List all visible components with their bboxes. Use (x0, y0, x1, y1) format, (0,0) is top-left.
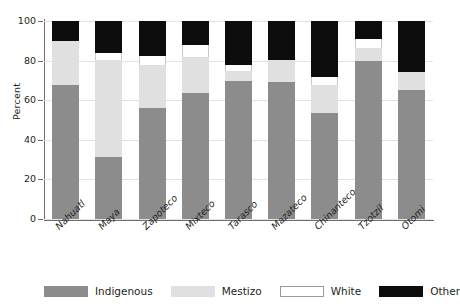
bar-segment-mestizo[interactable] (398, 72, 425, 91)
legend-swatch-other (379, 286, 423, 297)
legend-swatch-mestizo (171, 286, 215, 297)
bar-segment-white[interactable] (95, 53, 122, 60)
bar-segment-mestizo[interactable] (225, 71, 252, 82)
bar-segment-white[interactable] (139, 56, 166, 65)
bar-segment-indigenous[interactable] (225, 81, 252, 219)
y-axis-tick-label: 100 (6, 16, 36, 26)
bar-segment-other[interactable] (355, 21, 382, 39)
y-axis-tick-label: 0 (6, 214, 36, 224)
bar-column[interactable] (52, 21, 79, 219)
bar-column[interactable] (311, 21, 338, 219)
y-axis-tick (38, 61, 43, 62)
bar-segment-white[interactable] (311, 77, 338, 85)
bar-column[interactable] (355, 21, 382, 219)
legend-swatch-indigenous (44, 286, 88, 297)
bar-segment-mestizo[interactable] (95, 60, 122, 157)
y-axis-tick (38, 21, 43, 22)
bar-segment-other[interactable] (182, 21, 209, 45)
y-axis-tick (38, 140, 43, 141)
bar-segment-other[interactable] (268, 21, 295, 60)
bar-segment-other[interactable] (398, 21, 425, 71)
bar-column[interactable] (182, 21, 209, 219)
bar-segment-mestizo[interactable] (311, 85, 338, 113)
bar-segment-mestizo[interactable] (52, 41, 79, 86)
bar-segment-other[interactable] (311, 21, 338, 77)
bar-column[interactable] (268, 21, 295, 219)
chart-legend: IndigenousMestizoWhiteOther (44, 281, 444, 301)
bar-segment-mestizo[interactable] (355, 48, 382, 61)
y-axis-tick-label: 80 (6, 56, 36, 66)
bar-segment-indigenous[interactable] (268, 82, 295, 219)
legend-label: Indigenous (95, 285, 153, 297)
bar-segment-indigenous[interactable] (182, 93, 209, 219)
bar-segment-white[interactable] (225, 65, 252, 71)
bar-column[interactable] (139, 21, 166, 219)
bar-segment-other[interactable] (52, 21, 79, 41)
bar-segment-white[interactable] (182, 45, 209, 57)
legend-item-indigenous[interactable]: Indigenous (44, 285, 153, 297)
y-axis-tick-label: 20 (6, 174, 36, 184)
legend-item-other[interactable]: Other (379, 285, 460, 297)
legend-item-mestizo[interactable]: Mestizo (171, 285, 262, 297)
y-axis-tick (38, 100, 43, 101)
bar-segment-other[interactable] (95, 21, 122, 53)
legend-label: White (331, 285, 362, 297)
y-axis-tick (38, 219, 43, 220)
y-axis-tick-label: 40 (6, 135, 36, 145)
bar-segment-indigenous[interactable] (52, 85, 79, 219)
bar-column[interactable] (95, 21, 122, 219)
bar-segment-indigenous[interactable] (355, 61, 382, 219)
legend-swatch-white (280, 286, 324, 297)
y-axis-tick-label: 60 (6, 95, 36, 105)
y-axis-tick (38, 179, 43, 180)
plot-area: 020406080100 (44, 21, 433, 219)
legend-label: Mestizo (222, 285, 262, 297)
bar-group (44, 21, 433, 219)
legend-label: Other (430, 285, 460, 297)
legend-item-white[interactable]: White (280, 285, 362, 297)
bar-segment-mestizo[interactable] (182, 57, 209, 94)
bar-segment-white[interactable] (355, 39, 382, 48)
bar-column[interactable] (398, 21, 425, 219)
bar-column[interactable] (225, 21, 252, 219)
bar-segment-other[interactable] (139, 21, 166, 56)
bar-segment-mestizo[interactable] (139, 65, 166, 109)
bar-segment-indigenous[interactable] (398, 90, 425, 219)
bar-segment-mestizo[interactable] (268, 60, 295, 83)
bar-segment-other[interactable] (225, 21, 252, 65)
